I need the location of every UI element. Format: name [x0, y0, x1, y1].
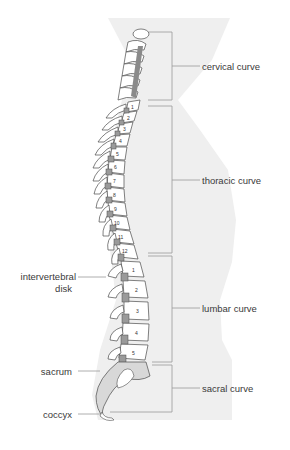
- label-cervical-curve: cervical curve: [202, 61, 260, 72]
- svg-text:8: 8: [113, 192, 116, 198]
- svg-text:11: 11: [118, 234, 123, 240]
- svg-text:4: 4: [135, 330, 138, 336]
- svg-text:6: 6: [114, 164, 117, 170]
- svg-text:1: 1: [131, 104, 134, 110]
- label-lumbar-curve: lumbar curve: [202, 303, 257, 314]
- svg-text:12: 12: [122, 248, 128, 254]
- label-intervertebral: intervertebral: [21, 271, 76, 282]
- svg-text:5: 5: [116, 151, 119, 157]
- label-disk: disk: [55, 283, 72, 294]
- svg-text:1: 1: [132, 267, 135, 273]
- label-coccyx: coccyx: [43, 409, 72, 420]
- svg-text:5: 5: [132, 350, 135, 356]
- label-sacrum: sacrum: [41, 366, 72, 377]
- label-sacral-curve: sacral curve: [202, 383, 253, 394]
- svg-text:2: 2: [127, 115, 130, 121]
- svg-text:7: 7: [113, 178, 116, 184]
- svg-text:3: 3: [123, 126, 126, 132]
- spine-diagram: 123 456 789 101112 123 45 cervical curve…: [0, 0, 290, 450]
- svg-text:9: 9: [114, 206, 117, 212]
- svg-text:4: 4: [119, 138, 122, 144]
- svg-text:10: 10: [114, 220, 120, 226]
- svg-text:3: 3: [136, 308, 139, 314]
- label-thoracic-curve: thoracic curve: [202, 175, 261, 186]
- svg-text:2: 2: [135, 287, 138, 293]
